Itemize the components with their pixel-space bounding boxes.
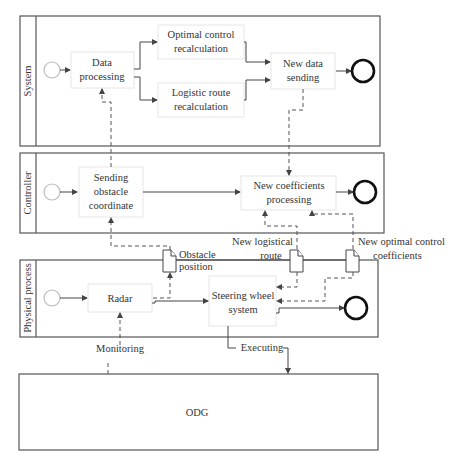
pool-odg: ODG bbox=[19, 374, 378, 450]
svg-text:Logistic route: Logistic route bbox=[172, 87, 231, 98]
svg-text:processing: processing bbox=[267, 194, 313, 205]
end-event-system[interactable] bbox=[352, 60, 374, 82]
svg-text:system: system bbox=[228, 304, 257, 315]
svg-text:Obstacle: Obstacle bbox=[179, 249, 216, 260]
svg-text:New coefficients: New coefficients bbox=[253, 180, 324, 191]
odg-label: ODG bbox=[186, 407, 209, 418]
start-event-controller[interactable] bbox=[44, 184, 60, 200]
end-event-physical[interactable] bbox=[345, 297, 367, 319]
svg-text:position: position bbox=[179, 261, 214, 272]
end-event-controller[interactable] bbox=[354, 181, 376, 203]
start-event-physical[interactable] bbox=[44, 290, 60, 306]
svg-text:Radar: Radar bbox=[107, 293, 133, 304]
svg-text:New data: New data bbox=[283, 58, 323, 69]
svg-text:obstacle: obstacle bbox=[94, 186, 129, 197]
svg-text:Sending: Sending bbox=[94, 172, 129, 183]
bpmn-visual: System Controller Physical process ODG D… bbox=[0, 0, 460, 464]
lane-label-system: System bbox=[22, 66, 33, 97]
svg-text:sending: sending bbox=[287, 72, 320, 83]
lane-label-controller: Controller bbox=[22, 171, 33, 215]
task-logistic-route-recalculation[interactable]: Logistic route recalculation bbox=[158, 83, 244, 117]
svg-text:coordinate: coordinate bbox=[89, 200, 134, 211]
task-sending-obstacle-coordinate[interactable]: Sending obstacle coordinate bbox=[79, 167, 143, 217]
svg-text:coefficients: coefficients bbox=[373, 250, 422, 261]
svg-text:processing: processing bbox=[80, 71, 126, 82]
svg-text:New logistical: New logistical bbox=[232, 236, 293, 247]
lane-label-physical-process: Physical process bbox=[22, 263, 33, 333]
svg-text:route: route bbox=[260, 250, 282, 261]
svg-text:New optimal control: New optimal control bbox=[358, 236, 445, 247]
task-data-processing[interactable]: Data processing bbox=[71, 52, 134, 88]
task-new-data-sending[interactable]: New data sending bbox=[271, 53, 335, 89]
svg-text:Optimal control: Optimal control bbox=[168, 29, 235, 40]
svg-text:recalculation: recalculation bbox=[174, 43, 229, 54]
task-steering-wheel-system[interactable]: Steering wheel system bbox=[209, 276, 276, 326]
data-object-new-optimal-control-coefficients[interactable]: New optimal control coefficients bbox=[346, 236, 445, 272]
executing-label: Executing bbox=[241, 342, 284, 353]
svg-text:Steering wheel: Steering wheel bbox=[212, 290, 275, 301]
task-radar[interactable]: Radar bbox=[88, 284, 152, 312]
task-optimal-control-recalculation[interactable]: Optimal control recalculation bbox=[158, 25, 244, 59]
start-event-system[interactable] bbox=[44, 62, 60, 78]
task-new-coefficients-processing[interactable]: New coefficients processing bbox=[241, 176, 336, 210]
data-object-new-logistical-route[interactable]: New logistical route bbox=[232, 236, 303, 272]
svg-text:Data: Data bbox=[92, 57, 112, 68]
monitoring-label: Monitoring bbox=[96, 343, 145, 354]
svg-text:recalculation: recalculation bbox=[174, 101, 229, 112]
